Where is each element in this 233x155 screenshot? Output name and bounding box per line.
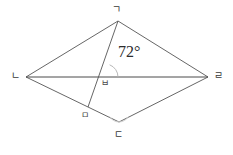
geometry-figure: ㄱ ㄴ ㄷ ㄹ ㅁ ㅂ 72° (0, 0, 233, 155)
angle-arc-intersection (110, 65, 118, 77)
vertex-label-top: ㄱ (112, 5, 121, 15)
point-label-foot: ㅁ (81, 111, 89, 120)
point-label-intersection: ㅂ (101, 79, 109, 88)
vertex-label-left: ㄴ (11, 71, 20, 81)
segment-top-left-side (26, 21, 118, 77)
vertex-label-bottom: ㄷ (114, 130, 123, 140)
vertex-label-right: ㄹ (214, 71, 223, 81)
angle-measure-label: 72° (118, 44, 140, 60)
segment-cevian (88, 21, 118, 107)
segment-bottom-right-side (119, 77, 208, 122)
